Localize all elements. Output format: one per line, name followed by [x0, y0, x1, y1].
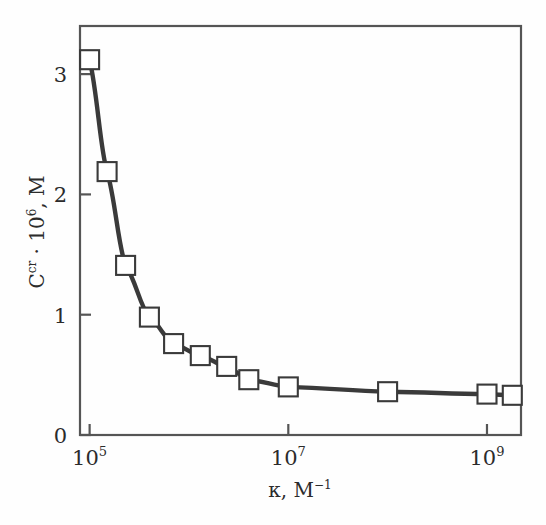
data-line — [90, 60, 513, 396]
data-point-marker — [164, 334, 183, 353]
data-point-marker — [279, 377, 298, 396]
scientific-line-chart: 105107109 0123 κ, M−1 Ccr · 106, M — [0, 0, 546, 525]
y-axis-title-sup: cr — [25, 261, 39, 274]
y-axis-title-mid: · 10 — [25, 216, 49, 261]
y-tick-label-3: 3 — [54, 63, 67, 87]
x-axis-title: κ, M−1 — [268, 478, 331, 502]
data-point-marker — [116, 256, 135, 275]
data-point-marker — [239, 370, 258, 389]
data-series-group — [80, 50, 522, 405]
data-point-marker — [80, 50, 99, 69]
plot-frame — [80, 26, 521, 435]
data-markers — [80, 50, 522, 405]
data-point-marker — [140, 308, 159, 327]
data-point-marker — [217, 357, 236, 376]
x-axis-title-text: κ, M−1 — [268, 478, 331, 502]
data-point-marker — [191, 346, 210, 365]
y-axis-ticks — [80, 74, 91, 435]
data-point-marker — [378, 382, 397, 401]
y-tick-label-0: 0 — [54, 424, 67, 448]
figure-page: 105107109 0123 κ, M−1 Ccr · 106, M — [0, 0, 546, 525]
y-axis-title: Ccr · 106, M — [25, 175, 49, 288]
y-axis-title-base: C — [25, 273, 49, 288]
x-axis-ticks — [90, 424, 487, 435]
data-point-marker — [478, 385, 497, 404]
y-tick-label-2: 2 — [54, 183, 67, 207]
y-axis-title-text: Ccr · 106, M — [25, 175, 49, 288]
data-point-marker — [98, 162, 117, 181]
data-point-marker — [503, 386, 522, 405]
x-axis-title-base: κ, M — [268, 478, 314, 502]
x-tick-label-2: 109 — [469, 444, 504, 470]
plot-border — [80, 26, 521, 435]
y-tick-label-1: 1 — [54, 304, 67, 328]
x-tick-labels: 105107109 — [72, 444, 504, 470]
x-tick-label-0: 105 — [72, 444, 107, 470]
x-tick-label-1: 107 — [271, 444, 306, 470]
y-tick-labels: 0123 — [54, 63, 67, 448]
x-axis-title-exponent: −1 — [314, 478, 332, 492]
y-axis-title-tail: , M — [25, 175, 49, 208]
y-axis-title-exponent: 6 — [25, 209, 39, 217]
